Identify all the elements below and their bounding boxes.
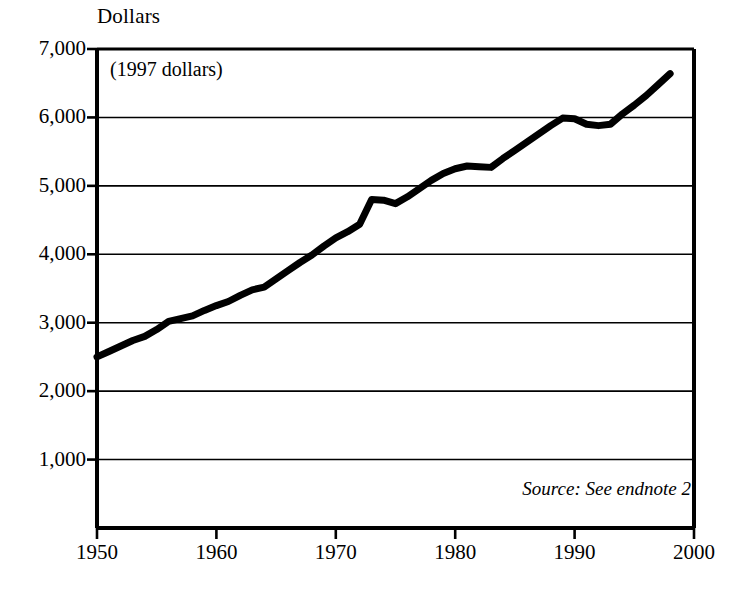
data-line-series: [97, 74, 670, 357]
y-tick-label: 5,000: [39, 175, 86, 196]
y-tick-label: 4,000: [39, 243, 86, 264]
y-tick-label: 3,000: [39, 312, 86, 333]
y-tick-label: 2,000: [39, 380, 86, 401]
y-tick-label: 1,000: [39, 449, 86, 470]
plot-area: [0, 0, 735, 589]
y-tick-label: 6,000: [39, 106, 86, 127]
x-tick-label: 1980: [434, 542, 476, 563]
x-tick-label: 1970: [315, 542, 357, 563]
y-tick-label: 7,000: [39, 38, 86, 59]
x-tick-label: 1950: [76, 542, 118, 563]
x-tick-label: 2000: [673, 542, 715, 563]
axis-frame-group: [97, 49, 694, 528]
chart-figure: Dollars (1997 dollars) Source: See endno…: [0, 0, 735, 589]
gridlines-group: [97, 49, 694, 460]
x-tick-label: 1990: [554, 542, 596, 563]
x-tick-label: 1960: [195, 542, 237, 563]
